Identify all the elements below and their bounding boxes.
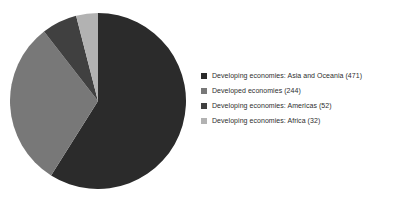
pie-slice-group (10, 13, 186, 189)
legend-swatch-africa (201, 118, 207, 124)
pie-chart-figure: Developing economies: Asia and Oceania (… (0, 0, 394, 198)
legend-item-developed-economies[interactable]: Developed economies (244) (201, 83, 391, 98)
legend-label-developed-economies: Developed economies (244) (212, 86, 301, 95)
legend-label-asia-and-oceania: Developing economies: Asia and Oceania (… (212, 71, 362, 80)
legend-item-americas[interactable]: Developing economies: Americas (52) (201, 98, 391, 113)
pie-svg (10, 13, 186, 189)
legend-swatch-developed-economies (201, 88, 207, 94)
chart-legend: Developing economies: Asia and Oceania (… (201, 68, 391, 128)
legend-swatch-asia-and-oceania (201, 73, 207, 79)
legend-item-africa[interactable]: Developing economies: Africa (32) (201, 113, 391, 128)
legend-label-americas: Developing economies: Americas (52) (212, 101, 332, 110)
legend-swatch-americas (201, 103, 207, 109)
legend-item-asia-and-oceania[interactable]: Developing economies: Asia and Oceania (… (201, 68, 391, 83)
legend-label-africa: Developing economies: Africa (32) (212, 116, 320, 125)
pie-chart-plot-area (10, 13, 186, 189)
